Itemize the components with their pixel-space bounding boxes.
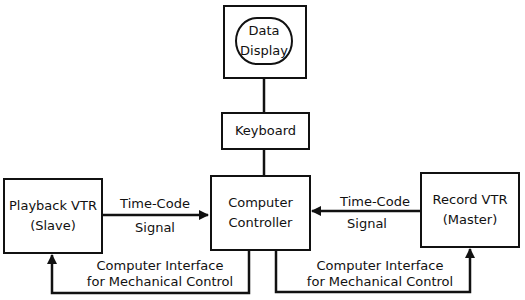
data-display-node: Data Display xyxy=(223,5,307,79)
right-timecode-label-2: Signal xyxy=(322,214,412,233)
keyboard-node: Keyboard xyxy=(221,112,310,150)
controller-line2: Controller xyxy=(229,213,293,233)
left-interface-label-2: for Mechanical Control xyxy=(70,272,250,291)
record-line2: (Master) xyxy=(443,210,498,230)
playback-vtr-node: Playback VTR (Slave) xyxy=(3,178,103,254)
display-shape: Data Display xyxy=(235,17,293,65)
left-timecode-label-2: Signal xyxy=(110,218,200,237)
data-display-line1: Data xyxy=(248,21,279,41)
record-vtr-node: Record VTR (Master) xyxy=(420,172,520,248)
controller-line1: Computer xyxy=(228,193,293,213)
data-display-line2: Display xyxy=(240,41,288,61)
keyboard-label: Keyboard xyxy=(235,121,296,141)
playback-line1: Playback VTR xyxy=(9,196,97,216)
computer-controller-node: Computer Controller xyxy=(210,175,311,251)
record-line1: Record VTR xyxy=(433,190,508,210)
left-timecode-label-1: Time-Code xyxy=(110,194,200,213)
playback-line2: (Slave) xyxy=(30,216,76,236)
right-interface-label-2: for Mechanical Control xyxy=(290,272,470,291)
right-timecode-label-1: Time-Code xyxy=(330,192,420,211)
